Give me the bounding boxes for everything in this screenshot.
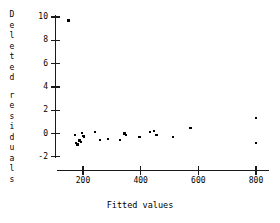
x-axis-title: Fitted values	[0, 200, 280, 210]
x-axis-tick-mark	[82, 166, 83, 175]
x-axis-tick-label: 400	[124, 177, 158, 185]
scatter-point	[74, 134, 76, 136]
scatter-point	[107, 138, 109, 140]
y-axis-title-char: d	[4, 133, 20, 144]
scatter-point	[119, 139, 121, 141]
y-axis-tick-mark	[51, 16, 60, 17]
y-axis-title-char: u	[4, 143, 20, 154]
y-axis-tick-mark	[51, 40, 60, 41]
scatter-point	[67, 19, 69, 21]
y-axis-title-char: s	[4, 112, 20, 123]
scatter-point	[172, 136, 174, 138]
scatter-point	[123, 132, 125, 134]
scatter-point	[149, 131, 151, 133]
y-axis-tick-label: -2	[24, 153, 48, 161]
scatter-point	[76, 143, 78, 145]
scatter-point	[255, 142, 257, 144]
y-axis-tick-label: 2	[24, 106, 48, 114]
y-axis-tick-label: 6	[24, 60, 48, 68]
x-axis-tick-mark	[255, 166, 256, 175]
scatter-point	[75, 142, 77, 144]
y-axis-tick-mark	[51, 86, 60, 87]
y-axis-title-char: d	[4, 73, 20, 84]
x-axis-tick-mark	[140, 166, 141, 175]
y-axis-tick-label: 10	[24, 13, 48, 21]
y-axis-title-char: e	[4, 21, 20, 32]
scatter-point	[125, 134, 127, 136]
x-axis-tick-label: 200	[66, 177, 100, 185]
y-axis-tick-mark	[51, 156, 60, 157]
x-axis-line	[57, 170, 269, 171]
scatter-point	[255, 117, 257, 119]
scatter-point	[83, 135, 85, 137]
y-axis-title-char: e	[4, 42, 20, 53]
scatter-point	[138, 136, 140, 138]
x-axis-tick-label: 800	[239, 177, 273, 185]
y-axis-title-char: a	[4, 154, 20, 165]
scatter-point	[81, 132, 83, 134]
scatter-point	[78, 139, 80, 141]
scatter-point	[80, 141, 82, 143]
x-axis-tick-mark	[198, 166, 199, 175]
y-axis-tick-mark	[51, 133, 60, 134]
scatter-point	[153, 130, 155, 132]
scatter-point	[79, 139, 81, 141]
x-axis-tick-label: 600	[181, 177, 215, 185]
scatter-plot-figure: Deletedresiduals -20246810 200400600800 …	[0, 0, 280, 223]
scatter-point	[99, 139, 101, 141]
y-axis-title-char: l	[4, 164, 20, 175]
y-axis-tick-mark	[51, 63, 60, 64]
y-axis-title-char: D	[4, 10, 20, 21]
scatter-point	[82, 135, 84, 137]
y-axis-tick-mark	[51, 110, 60, 111]
y-axis-title-gap	[4, 84, 20, 91]
y-axis-tick-label: 0	[24, 130, 48, 138]
y-axis-title-char: r	[4, 91, 20, 102]
y-axis-title-char: s	[4, 175, 20, 186]
y-axis-title-char: e	[4, 101, 20, 112]
y-axis-title-char: i	[4, 122, 20, 133]
scatter-point	[189, 127, 191, 129]
y-axis-title-char: t	[4, 52, 20, 63]
y-axis-title-char: l	[4, 31, 20, 42]
y-axis-title-char: e	[4, 63, 20, 74]
y-axis-title: Deletedresiduals	[4, 10, 20, 185]
scatter-point	[94, 131, 96, 133]
y-axis-tick-label: 4	[24, 83, 48, 91]
scatter-point	[155, 134, 157, 136]
y-axis-tick-label: 8	[24, 36, 48, 44]
